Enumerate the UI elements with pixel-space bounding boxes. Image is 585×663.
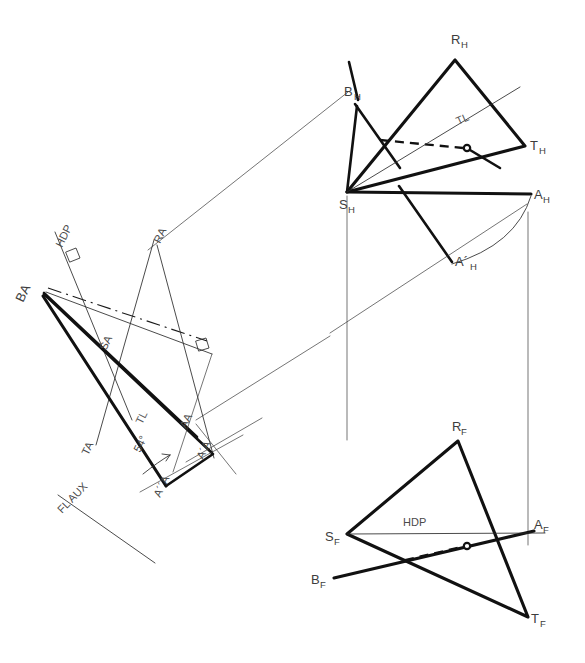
label-TF-sub: F: [540, 618, 546, 629]
segment-to-a-prime-top: [399, 186, 452, 262]
label-FLAUX-aux: FL AUX: [55, 480, 90, 516]
true-length-line-top: [347, 87, 520, 192]
front-view-group: R F S F A F B F T F HDP: [311, 419, 549, 629]
label-TL-aux: TL: [133, 409, 149, 426]
label-TL-top: TL: [454, 111, 471, 127]
label-SH-base: S: [339, 197, 348, 212]
front-view-labels: R F S F A F B F T F HDP: [311, 419, 549, 629]
line-ba-top-visible: [347, 192, 531, 194]
hdp-line-aux: [55, 232, 132, 420]
triangle-rst-front: [347, 441, 528, 617]
technical-drawing-canvas: R H B H T H S H A H A´ H TL: [0, 0, 585, 663]
label-SF-sub: F: [334, 536, 340, 547]
line-bh-to-sh: [347, 106, 357, 192]
auxiliary-view-labels: BA HDP RA SA TA TL AA A´A A´´A FL AUX 54…: [12, 223, 213, 516]
label-BF-sub: F: [320, 579, 326, 590]
label-AA-aux: AA: [177, 411, 195, 430]
label-AH-base: A: [534, 187, 543, 202]
label-AH-sub: H: [543, 194, 550, 205]
label-RH-sub: H: [461, 39, 468, 50]
label-BH-base: B: [344, 84, 353, 99]
label-TH-base: T: [530, 138, 538, 153]
top-view-group: R H B H T H S H A H A´ H TL: [148, 32, 550, 545]
label-SH-sub: H: [348, 204, 355, 215]
label-TA-aux: TA: [79, 439, 96, 457]
label-BF-base: B: [311, 572, 320, 587]
rotation-chord-top: [330, 204, 527, 333]
triangle-rst-top: [347, 60, 525, 192]
label-AprimeH-sub: H: [470, 261, 477, 272]
label-RH-base: R: [451, 32, 461, 47]
aux-edge-ba-upper: [46, 292, 212, 354]
projector-aux-upper: [148, 92, 348, 250]
label-AF-sub: F: [543, 524, 549, 535]
label-AprimeH-base: A´: [455, 254, 468, 269]
label-TH-sub: H: [539, 145, 546, 156]
label-TF-base: T: [531, 611, 539, 626]
label-HDP-front: HDP: [403, 516, 426, 528]
label-RF-sub: F: [461, 426, 467, 437]
right-angle-marker-upper: [66, 248, 80, 262]
label-BA-aux: BA: [12, 282, 33, 305]
label-SA-aux: SA: [97, 333, 115, 352]
top-view-labels: R H B H T H S H A H A´ H TL: [339, 32, 550, 272]
label-AF-base: A: [534, 517, 543, 532]
descriptive-geometry-svg: R H B H T H S H A H A´ H TL: [0, 0, 585, 663]
label-HDP-aux: HDP: [53, 223, 74, 249]
piercing-point-marker-front: [464, 543, 470, 549]
label-RA-aux: RA: [151, 225, 169, 245]
aux-heavy-edge-close: [166, 454, 213, 486]
label-AdoubleprimeA-aux: A´´A: [151, 473, 172, 499]
auxiliary-view-group: BA HDP RA SA TA TL AA A´A A´´A FL AUX 54…: [12, 223, 262, 563]
projector-aux-lower: [196, 336, 330, 420]
label-SF-base: S: [325, 529, 334, 544]
label-BH-sub: H: [354, 91, 361, 102]
